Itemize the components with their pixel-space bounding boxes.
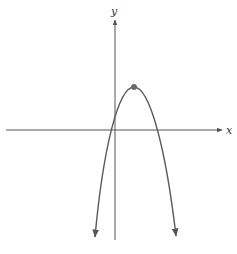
parabola-graph: x y <box>0 0 237 254</box>
x-axis-label: x <box>226 124 233 137</box>
parabola-curve <box>95 87 176 237</box>
y-axis-label: y <box>110 5 118 18</box>
vertex-point <box>131 84 137 90</box>
